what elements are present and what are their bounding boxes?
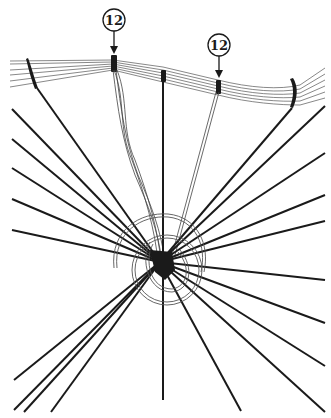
callout-1: 12 [103, 9, 125, 54]
clamp-left [111, 55, 117, 72]
spoke-diagram: 12 12 [0, 0, 331, 418]
callout-label: 12 [105, 13, 123, 28]
top-wire-bundle [10, 60, 325, 105]
callout-2: 12 [208, 34, 230, 78]
arrow-down-icon [215, 70, 223, 78]
spokes [12, 80, 325, 412]
clamp-far-right [290, 78, 297, 108]
arrow-down-icon [110, 46, 118, 54]
callout-label: 12 [210, 38, 228, 53]
clamp-right [216, 80, 221, 94]
hub [150, 250, 175, 280]
